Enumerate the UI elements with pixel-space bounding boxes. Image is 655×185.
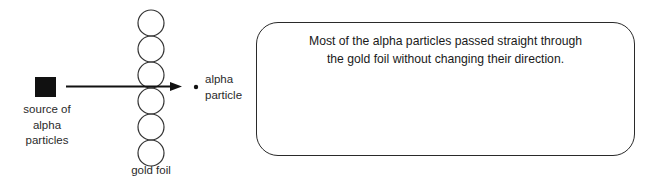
gold-atom-circle-icon <box>138 62 164 88</box>
alpha-particle-dot-icon <box>194 85 198 89</box>
gold-atom-circle-icon <box>138 114 164 140</box>
observation-text: Most of the alpha particles passed strai… <box>257 32 634 68</box>
particle-label-line: particle <box>205 88 242 104</box>
gold-foil-label: gold foil <box>111 163 191 179</box>
source-label-line: alpha <box>6 118 88 134</box>
source-label: source of alpha particles <box>6 102 88 149</box>
particle-label-line: alpha <box>205 72 242 88</box>
alpha-particle-label: alpha particle <box>205 72 242 103</box>
gold-atom-circle-icon <box>138 10 164 36</box>
observation-box: Most of the alpha particles passed strai… <box>256 22 635 156</box>
observation-line: Most of the alpha particles passed strai… <box>257 32 634 50</box>
arrowhead-icon <box>170 82 182 91</box>
gold-atom-circle-icon <box>138 88 164 114</box>
observation-line: the gold foil without changing their dir… <box>257 50 634 68</box>
alpha-source-square-icon <box>35 77 56 97</box>
source-label-line: source of <box>6 102 88 118</box>
source-label-line: particles <box>6 133 88 149</box>
gold-foil-atoms <box>138 10 164 166</box>
gold-atom-circle-icon <box>138 36 164 62</box>
